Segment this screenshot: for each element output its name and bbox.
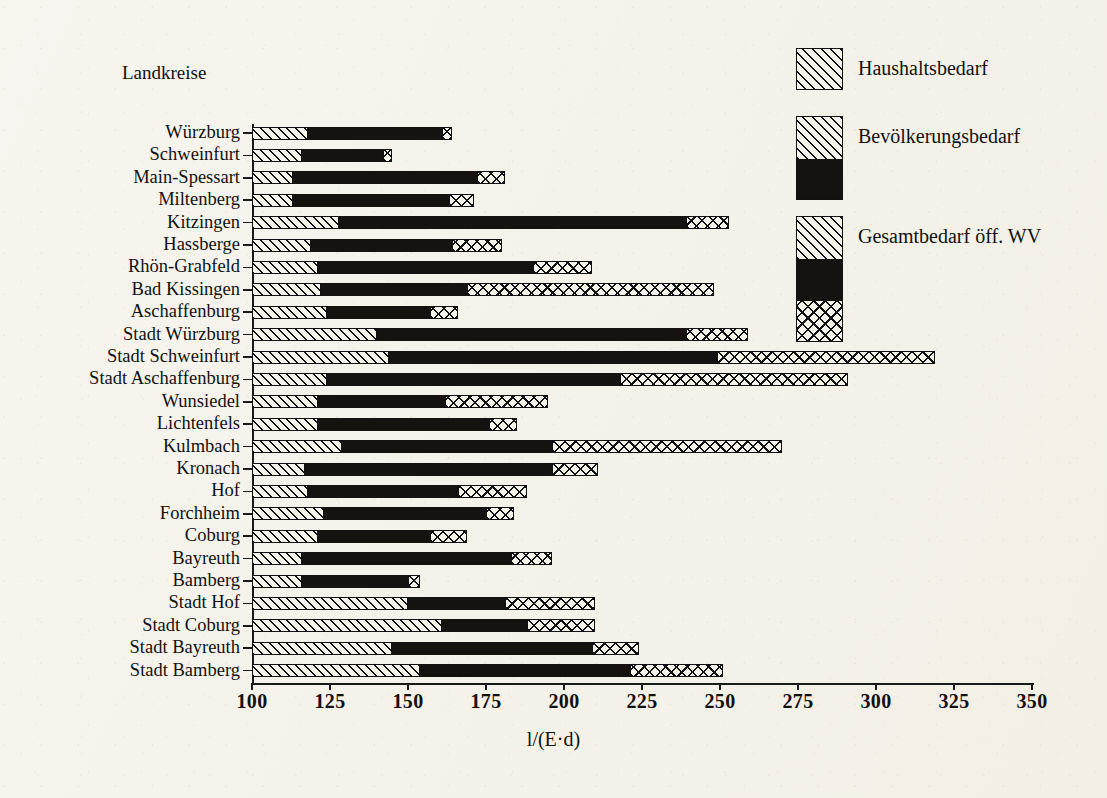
legend-label: Bevölkerungsbedarf xyxy=(858,125,1020,148)
x-axis-tick-label: 150 xyxy=(393,690,424,713)
x-axis-tick-label: 250 xyxy=(705,690,736,713)
legend-swatch-haushalt xyxy=(797,117,842,159)
x-axis-tick-label: 225 xyxy=(627,690,658,713)
x-axis-tick xyxy=(1031,683,1033,690)
x-axis-title: l/(E·d) xyxy=(0,728,1107,751)
bar-segment-haushaltsbedarf xyxy=(252,261,318,274)
category-label: Bad Kissingen xyxy=(0,280,240,299)
bar-segment-gesamtbedarf xyxy=(533,261,592,274)
category-tick xyxy=(243,446,252,448)
bar-segment-bevoelkerungsbedarf xyxy=(442,619,526,632)
category-tick xyxy=(243,580,252,582)
legend-swatch-bevoelkerung xyxy=(797,259,842,301)
category-label: Miltenberg xyxy=(0,190,240,209)
category-tick xyxy=(243,625,252,627)
category-axis-title: Landkreise xyxy=(122,62,206,84)
bar-segment-haushaltsbedarf xyxy=(252,440,342,453)
bar-segment-bevoelkerungsbedarf xyxy=(392,642,592,655)
category-label: Schweinfurt xyxy=(0,145,240,164)
category-label: Hof xyxy=(0,481,240,500)
bar-segment-haushaltsbedarf xyxy=(252,507,324,520)
category-label: Bayreuth xyxy=(0,549,240,568)
category-label: Main-Spessart xyxy=(0,168,240,187)
x-axis-tick-label: 100 xyxy=(237,690,268,713)
x-axis-tick-label: 175 xyxy=(471,690,502,713)
category-tick xyxy=(243,222,252,224)
bar-segment-bevoelkerungsbedarf xyxy=(321,283,468,296)
bar-segment-gesamtbedarf xyxy=(552,440,783,453)
bar-segment-gesamtbedarf xyxy=(717,351,935,364)
x-axis-line xyxy=(252,683,1034,685)
x-axis-tick xyxy=(875,683,877,690)
bar-segment-bevoelkerungsbedarf xyxy=(311,239,451,252)
bar-segment-gesamtbedarf xyxy=(442,127,451,140)
bar-segment-bevoelkerungsbedarf xyxy=(302,575,408,588)
bar-segment-gesamtbedarf xyxy=(620,373,848,386)
bar-segment-haushaltsbedarf xyxy=(252,283,321,296)
x-axis-tick xyxy=(407,683,409,690)
bar-segment-bevoelkerungsbedarf xyxy=(308,127,442,140)
category-label: Stadt Hof xyxy=(0,593,240,612)
category-label: Stadt Würzburg xyxy=(0,325,240,344)
category-tick xyxy=(243,177,252,179)
legend-swatch-haushalt xyxy=(797,49,842,90)
bar-segment-gesamtbedarf xyxy=(511,552,552,565)
bar-segment-haushaltsbedarf xyxy=(252,306,327,319)
bar-segment-haushaltsbedarf xyxy=(252,194,293,207)
category-label: Kulmbach xyxy=(0,437,240,456)
bar-segment-gesamtbedarf xyxy=(445,395,548,408)
bar-segment-bevoelkerungsbedarf xyxy=(327,373,620,386)
category-tick xyxy=(243,401,252,403)
x-axis-tick xyxy=(251,683,253,690)
category-label: Coburg xyxy=(0,526,240,545)
x-axis-tick-label: 275 xyxy=(783,690,814,713)
category-label: Hassberge xyxy=(0,235,240,254)
category-tick xyxy=(243,334,252,336)
bar-segment-gesamtbedarf xyxy=(686,328,748,341)
bar-segment-gesamtbedarf xyxy=(477,171,505,184)
x-axis-tick xyxy=(797,683,799,690)
bar-segment-haushaltsbedarf xyxy=(252,149,302,162)
category-label: Wunsiedel xyxy=(0,392,240,411)
bar-segment-bevoelkerungsbedarf xyxy=(339,216,685,229)
x-axis-tick xyxy=(563,683,565,690)
bar-segment-haushaltsbedarf xyxy=(252,171,293,184)
bar-segment-gesamtbedarf xyxy=(452,239,502,252)
legend-swatch-gesamt xyxy=(797,301,842,342)
category-tick xyxy=(243,491,252,493)
x-axis-tick xyxy=(641,683,643,690)
bar-segment-bevoelkerungsbedarf xyxy=(302,149,383,162)
bar-segment-gesamtbedarf xyxy=(383,149,392,162)
bar-segment-haushaltsbedarf xyxy=(252,351,389,364)
bar-segment-haushaltsbedarf xyxy=(252,127,308,140)
category-label: Forchheim xyxy=(0,504,240,523)
legend-swatch-bevoelkerung xyxy=(797,159,842,200)
category-tick xyxy=(243,244,252,246)
category-tick xyxy=(243,289,252,291)
bar-segment-haushaltsbedarf xyxy=(252,552,302,565)
category-tick xyxy=(243,513,252,515)
bar-segment-bevoelkerungsbedarf xyxy=(302,552,511,565)
x-axis-tick-label: 200 xyxy=(549,690,580,713)
bar-segment-gesamtbedarf xyxy=(430,306,458,319)
category-tick xyxy=(243,535,252,537)
bar-segment-bevoelkerungsbedarf xyxy=(308,485,458,498)
category-label: Stadt Aschaffenburg xyxy=(0,369,240,388)
bar-segment-haushaltsbedarf xyxy=(252,597,408,610)
legend-label: Gesamtbedarf öff. WV xyxy=(858,225,1041,248)
x-axis-tick xyxy=(485,683,487,690)
legend-label: Haushaltsbedarf xyxy=(858,57,988,80)
legend-swatch xyxy=(796,116,843,200)
category-label: Stadt Schweinfurt xyxy=(0,347,240,366)
bar-segment-bevoelkerungsbedarf xyxy=(377,328,686,341)
category-label: Lichtenfels xyxy=(0,414,240,433)
bar-segment-gesamtbedarf xyxy=(449,194,474,207)
category-label: Rhön-Grabfeld xyxy=(0,257,240,276)
bar-segment-bevoelkerungsbedarf xyxy=(324,507,486,520)
bar-chart: Landkreise WürzburgSchweinfurtMain-Spess… xyxy=(0,0,1107,798)
x-axis-tick xyxy=(329,683,331,690)
bar-segment-gesamtbedarf xyxy=(489,418,517,431)
bar-segment-bevoelkerungsbedarf xyxy=(318,530,430,543)
bar-segment-bevoelkerungsbedarf xyxy=(318,395,446,408)
category-tick xyxy=(243,199,252,201)
